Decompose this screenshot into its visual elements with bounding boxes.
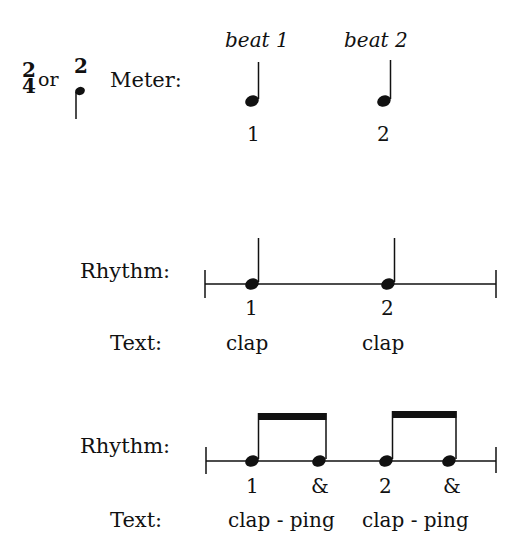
quarter-note-icon <box>243 62 260 109</box>
quarter-note-icon <box>379 238 396 292</box>
quarter-note-icon <box>74 86 86 119</box>
notation-graphics <box>0 0 516 537</box>
quarter-note-icon <box>375 60 392 109</box>
quarter-note-icon <box>243 238 260 292</box>
